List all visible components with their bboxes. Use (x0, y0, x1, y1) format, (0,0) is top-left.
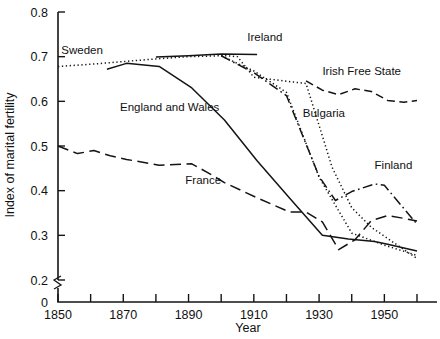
x-axis-title: Year (235, 321, 260, 335)
series-line-bulgaria (221, 55, 417, 258)
series-line-france (58, 146, 417, 250)
series-label-france: France (185, 174, 221, 186)
series-label-bulgaria: Bulgaria (303, 107, 346, 119)
x-tick-label: 1930 (305, 308, 333, 322)
y-tick-label: 0.7 (31, 50, 48, 64)
series-label-england-and-wales: England and Wales (120, 101, 220, 113)
series-line-finland (221, 56, 417, 224)
chart-figure: 0.20.30.40.50.60.70.80185018701890191019… (0, 0, 440, 339)
y-tick-label: 0.5 (31, 140, 48, 154)
y-tick-label: 0.2 (31, 274, 48, 288)
series-label-sweden: Sweden (61, 44, 103, 56)
y-tick-label: 0.8 (31, 6, 48, 20)
axis-break-icon (54, 276, 61, 289)
x-axis-line (58, 288, 437, 302)
series-label-ireland: Ireland (247, 31, 282, 43)
series-label-finland: Finland (375, 159, 413, 171)
series-label-irish-free-state: Irish Free State (322, 65, 401, 77)
x-tick-label: 1950 (370, 308, 398, 322)
x-tick-label: 1910 (240, 308, 268, 322)
y-axis-title: Index of marital fertility (3, 92, 17, 218)
y-tick-label: 0.4 (31, 184, 48, 198)
series-layer (58, 54, 417, 259)
x-tick-label: 1870 (109, 308, 137, 322)
series-line-irish-free-state (306, 81, 417, 102)
line-chart-svg: 0.20.30.40.50.60.70.80185018701890191019… (0, 0, 440, 339)
y-tick-label: 0.6 (31, 95, 48, 109)
x-tick-label: 1890 (175, 308, 203, 322)
x-tick-label: 1850 (44, 308, 72, 322)
y-tick-label: 0.3 (31, 229, 48, 243)
